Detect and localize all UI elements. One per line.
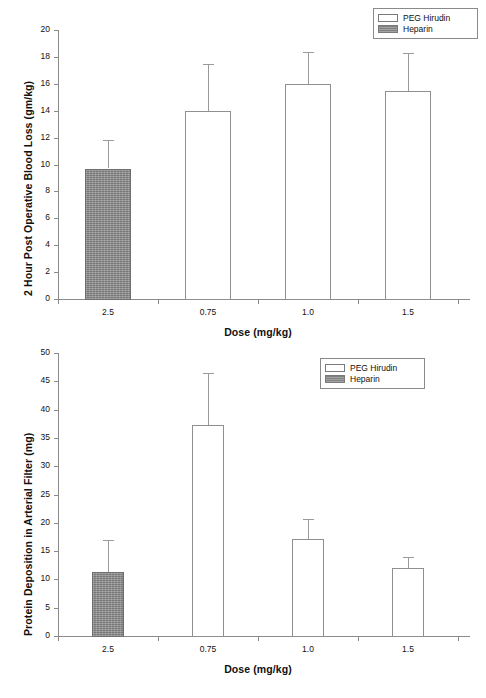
bar-peg-hirudin-0.75 bbox=[192, 425, 224, 637]
y-axis-title: Protein Deposition in Arterial Filter (m… bbox=[22, 433, 34, 636]
x-tick bbox=[158, 300, 159, 304]
y-tick bbox=[54, 111, 58, 112]
bar-peg-hirudin-1.0 bbox=[285, 84, 331, 300]
y-tick bbox=[54, 495, 58, 496]
y-tick bbox=[54, 218, 58, 219]
y-axis-title: 2 Hour Post Operative Blood Loss (gm/kg) bbox=[22, 81, 34, 296]
error-bar-stem bbox=[308, 519, 309, 539]
error-bar-stem bbox=[208, 64, 209, 111]
legend-swatch-open bbox=[325, 364, 345, 372]
x-tick bbox=[258, 300, 259, 304]
y-tick bbox=[54, 245, 58, 246]
error-bar-cap bbox=[303, 52, 314, 53]
x-axis-title: Dose (mg/kg) bbox=[58, 663, 458, 675]
error-bar-cap bbox=[403, 557, 414, 558]
legend-row: Heparin bbox=[325, 374, 419, 384]
error-bar-cap bbox=[403, 53, 414, 54]
chart-panel-protein-deposition: 051015202530354045502.50.751.01.5Protein… bbox=[0, 348, 486, 698]
y-tick bbox=[54, 551, 58, 552]
error-bar-cap bbox=[303, 519, 314, 520]
y-tick bbox=[54, 138, 58, 139]
error-bar-stem bbox=[308, 52, 309, 84]
x-tick-label: 1.0 bbox=[288, 645, 328, 654]
chart-legend: PEG Hirudin Heparin bbox=[320, 358, 425, 389]
bar-heparin-2.5 bbox=[85, 169, 131, 300]
x-tick-label: 1.0 bbox=[288, 308, 328, 317]
legend-row: PEG Hirudin bbox=[325, 363, 419, 373]
x-axis-title: Dose (mg/kg) bbox=[58, 326, 458, 338]
error-bar-cap bbox=[203, 64, 214, 65]
x-tick bbox=[58, 300, 59, 304]
error-bar-cap bbox=[203, 373, 214, 374]
chart-panel-blood-loss: 024681012141618202.50.751.01.52 Hour Pos… bbox=[0, 0, 486, 350]
bar-peg-hirudin-1.5 bbox=[385, 91, 431, 300]
y-tick bbox=[54, 466, 58, 467]
bar-heparin-2.5 bbox=[92, 572, 124, 637]
y-axis-line bbox=[58, 353, 59, 637]
y-axis-line bbox=[58, 30, 59, 300]
x-tick bbox=[58, 637, 59, 641]
x-tick bbox=[158, 637, 159, 641]
legend-swatch-filled bbox=[325, 375, 345, 383]
y-tick bbox=[54, 523, 58, 524]
legend-swatch-filled bbox=[378, 25, 398, 33]
error-bar-stem bbox=[108, 540, 109, 572]
y-tick-label: 18 bbox=[26, 52, 50, 61]
x-tick bbox=[458, 637, 459, 641]
x-tick-label: 2.5 bbox=[88, 645, 128, 654]
y-tick-label: 40 bbox=[26, 405, 50, 414]
y-tick bbox=[54, 608, 58, 609]
x-tick bbox=[458, 300, 459, 304]
y-tick bbox=[54, 165, 58, 166]
x-tick bbox=[358, 637, 359, 641]
bar-peg-hirudin-1.0 bbox=[292, 539, 324, 637]
error-bar-cap bbox=[103, 140, 114, 141]
y-tick bbox=[54, 438, 58, 439]
x-tick-label: 0.75 bbox=[188, 308, 228, 317]
y-tick bbox=[54, 353, 58, 354]
legend-row: PEG Hirudin bbox=[378, 13, 472, 23]
y-tick bbox=[54, 30, 58, 31]
x-tick-label: 1.5 bbox=[388, 645, 428, 654]
y-tick-label: 45 bbox=[26, 376, 50, 385]
error-bar-stem bbox=[208, 373, 209, 425]
error-bar-cap bbox=[103, 540, 114, 541]
error-bar-stem bbox=[408, 53, 409, 91]
y-tick bbox=[54, 579, 58, 580]
x-tick-label: 0.75 bbox=[188, 645, 228, 654]
legend-label: Heparin bbox=[350, 375, 380, 384]
legend-label: PEG Hirudin bbox=[403, 14, 450, 23]
legend-label: PEG Hirudin bbox=[350, 364, 397, 373]
legend-swatch-open bbox=[378, 14, 398, 22]
y-tick-label: 20 bbox=[26, 25, 50, 34]
bar-peg-hirudin-1.5 bbox=[392, 568, 424, 637]
x-tick bbox=[358, 300, 359, 304]
y-tick bbox=[54, 272, 58, 273]
x-tick bbox=[258, 637, 259, 641]
y-tick bbox=[54, 381, 58, 382]
legend-row: Heparin bbox=[378, 24, 472, 34]
error-bar-stem bbox=[108, 140, 109, 168]
error-bar-stem bbox=[408, 557, 409, 568]
y-tick-label: 50 bbox=[26, 348, 50, 357]
x-tick-label: 2.5 bbox=[88, 308, 128, 317]
x-tick-label: 1.5 bbox=[388, 308, 428, 317]
bar-peg-hirudin-0.75 bbox=[185, 111, 231, 300]
y-tick bbox=[54, 191, 58, 192]
chart-legend: PEG Hirudin Heparin bbox=[373, 8, 478, 39]
y-tick bbox=[54, 410, 58, 411]
legend-label: Heparin bbox=[403, 25, 433, 34]
y-tick bbox=[54, 57, 58, 58]
y-tick bbox=[54, 84, 58, 85]
